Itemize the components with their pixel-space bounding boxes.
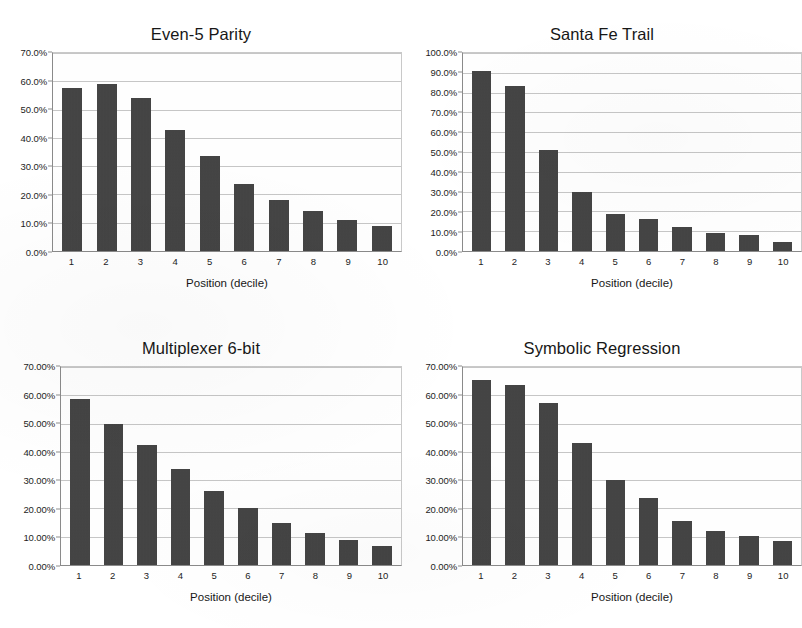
bar-slot — [330, 53, 364, 251]
y-axis-tick-label: 60.00% — [425, 389, 457, 400]
bar-slot — [197, 367, 231, 565]
bar-series — [61, 367, 401, 565]
bar — [70, 399, 89, 565]
bar-slot — [89, 53, 123, 251]
chart-panel-even5-parity: Even-5 Parity 0.0%10.0%20.0%30.0%40.0%50… — [0, 0, 402, 314]
x-axis-labels: 12345678910 — [462, 570, 802, 581]
y-axis-tick-label: 40.0% — [21, 132, 47, 143]
y-axis-tick-label: 20.0% — [21, 189, 47, 200]
x-axis-title: Position (decile) — [52, 277, 402, 289]
y-axis-tick-label: 60.0% — [21, 75, 47, 86]
bar — [472, 380, 491, 565]
x-axis-tick-label: 2 — [89, 256, 124, 267]
bar — [234, 184, 254, 251]
x-axis-tick-label: 9 — [332, 570, 366, 581]
bar — [739, 536, 758, 565]
x-axis-tick-label: 8 — [699, 570, 733, 581]
y-axis-tick-label: 70.00% — [23, 361, 55, 372]
y-axis-tick-label: 50.0% — [21, 104, 47, 115]
bar — [606, 480, 625, 565]
bar — [337, 220, 357, 251]
x-axis-tick-label: 5 — [197, 570, 231, 581]
bar — [372, 226, 392, 251]
chart-panel-multiplexer-6-bit: Multiplexer 6-bit 0.00%10.00%20.00%30.00… — [0, 314, 402, 628]
x-axis-tick-label: 5 — [598, 256, 632, 267]
y-axis-tick-label: 50.00% — [425, 418, 457, 429]
bar-slot — [699, 53, 732, 251]
bar-slot — [532, 367, 565, 565]
bar — [62, 88, 82, 251]
y-axis-labels: 0.00%10.00%20.00%30.00%40.00%50.00%60.00… — [402, 366, 462, 566]
bar-slot — [565, 367, 598, 565]
bar-slot — [124, 53, 158, 251]
y-axis-tick-label: 40.0% — [431, 167, 457, 178]
x-axis-tick-label: 5 — [598, 570, 632, 581]
x-axis-tick-label: 3 — [531, 570, 565, 581]
x-axis-title: Position (decile) — [60, 591, 402, 603]
bar — [672, 521, 691, 565]
bar-slot — [332, 367, 366, 565]
y-axis-tick-label: 50.0% — [431, 147, 457, 158]
plot-area — [60, 366, 402, 566]
plot-area — [462, 366, 802, 566]
bar-slot — [732, 367, 765, 565]
x-axis-tick-label: 2 — [96, 570, 130, 581]
chart-title: Multiplexer 6-bit — [0, 314, 402, 360]
y-axis-tick-label: 30.00% — [23, 475, 55, 486]
bar — [238, 508, 257, 565]
bar — [539, 403, 558, 565]
plot-area — [462, 52, 802, 252]
x-axis-tick-label: 2 — [498, 256, 532, 267]
x-axis-tick-label: 7 — [666, 256, 700, 267]
bar-slot — [193, 53, 227, 251]
bar-slot — [265, 367, 299, 565]
y-axis-tick-label: 90.0% — [431, 67, 457, 78]
x-axis-tick-label: 9 — [733, 256, 767, 267]
bar-slot — [465, 367, 498, 565]
bar — [472, 71, 491, 251]
bar — [97, 84, 117, 251]
bar — [639, 219, 658, 251]
bar — [706, 233, 725, 251]
y-axis-tick-label: 20.00% — [425, 503, 457, 514]
bar — [269, 200, 289, 251]
y-axis-tick-label: 40.00% — [425, 446, 457, 457]
x-axis-tick-label: 4 — [158, 256, 193, 267]
x-axis-tick-label: 6 — [227, 256, 262, 267]
y-axis-tick-label: 0.0% — [436, 247, 457, 258]
x-axis-tick-label: 9 — [331, 256, 366, 267]
bar — [606, 214, 625, 251]
bar — [137, 445, 156, 565]
bar-slot — [296, 53, 330, 251]
bar — [773, 541, 792, 565]
bar-slot — [732, 53, 765, 251]
bar-slot — [766, 53, 799, 251]
y-axis-tick-label: 10.00% — [425, 532, 457, 543]
x-axis-tick-label: 4 — [565, 256, 599, 267]
chart-title: Even-5 Parity — [0, 0, 402, 46]
bar — [165, 130, 185, 251]
bar-slot — [766, 367, 799, 565]
bar — [372, 546, 391, 565]
bar — [739, 235, 758, 251]
bar — [539, 150, 558, 251]
x-axis-title: Position (decile) — [462, 591, 802, 603]
x-axis-tick-label: 10 — [766, 570, 800, 581]
bar-slot — [63, 367, 97, 565]
bar — [639, 498, 658, 565]
bar-slot — [665, 367, 698, 565]
bar-slot — [498, 53, 531, 251]
bar-slot — [699, 367, 732, 565]
x-axis-tick-label: 6 — [231, 570, 265, 581]
y-axis-labels: 0.0%10.0%20.0%30.0%40.0%50.0%60.0%70.0% — [0, 52, 52, 252]
bar — [204, 491, 223, 565]
x-axis-tick-label: 8 — [299, 570, 333, 581]
bar — [171, 469, 190, 565]
y-axis-tick-label: 70.00% — [425, 361, 457, 372]
x-axis-tick-label: 3 — [531, 256, 565, 267]
bar-slot — [164, 367, 198, 565]
y-axis-tick-label: 50.00% — [23, 418, 55, 429]
plot-area — [52, 52, 402, 252]
bar — [131, 98, 151, 251]
x-axis-tick-label: 7 — [666, 570, 700, 581]
